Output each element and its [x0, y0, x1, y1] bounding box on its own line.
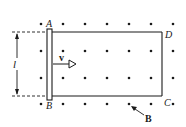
field-dot	[84, 50, 87, 53]
field-dot	[150, 23, 153, 26]
field-dot	[40, 77, 43, 80]
length-label: l	[13, 58, 16, 70]
label-C: C	[164, 97, 171, 108]
field-dot	[84, 77, 87, 80]
magnetic-field-label: B	[145, 113, 152, 124]
field-dot	[40, 103, 43, 106]
field-dot	[106, 50, 109, 53]
velocity-arrow	[53, 60, 76, 68]
field-dot	[172, 23, 175, 26]
field-dot	[172, 77, 175, 80]
field-dot	[84, 103, 87, 106]
field-dot	[128, 77, 131, 80]
field-dot	[106, 77, 109, 80]
label-A: A	[45, 18, 53, 29]
rod-rail-circuit-diagram: l v A B D C B	[0, 0, 186, 127]
field-dot	[150, 103, 153, 106]
field-dot	[128, 50, 131, 53]
field-dot	[128, 23, 131, 26]
field-dot	[150, 50, 153, 53]
field-pointer-arrow	[131, 106, 144, 115]
field-dot	[106, 23, 109, 26]
field-dot	[106, 103, 109, 106]
field-dot	[84, 23, 87, 26]
field-dot	[40, 23, 43, 26]
velocity-label: v	[59, 52, 64, 63]
label-B-rod-end: B	[46, 100, 52, 111]
field-dot	[62, 103, 65, 106]
field-dot	[62, 23, 65, 26]
field-dot	[172, 103, 175, 106]
label-D: D	[164, 29, 173, 40]
field-dot	[62, 77, 65, 80]
field-dot	[172, 50, 175, 53]
field-dot	[40, 50, 43, 53]
sliding-rod-AB	[47, 29, 52, 100]
field-dot	[150, 77, 153, 80]
field-dot	[128, 103, 131, 106]
